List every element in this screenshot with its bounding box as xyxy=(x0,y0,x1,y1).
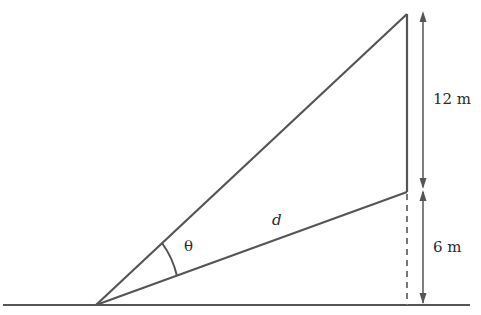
angle-arc xyxy=(162,243,177,276)
upper-sight-line xyxy=(96,14,407,305)
distance-line-d xyxy=(96,192,407,305)
label-lower-height: 6 m xyxy=(433,238,462,256)
arrowhead-bottom-icon xyxy=(420,293,427,304)
label-upper-height: 12 m xyxy=(433,90,471,108)
diagram-canvas: 12 m 6 m d θ xyxy=(0,0,481,315)
label-distance-d: d xyxy=(272,211,282,229)
arrowhead-12m-bottom-icon xyxy=(420,178,427,189)
arrowhead-top-icon xyxy=(420,11,427,22)
label-angle-theta: θ xyxy=(184,237,193,255)
arrowhead-6m-top-icon xyxy=(420,190,427,201)
diagram-svg xyxy=(0,0,481,315)
